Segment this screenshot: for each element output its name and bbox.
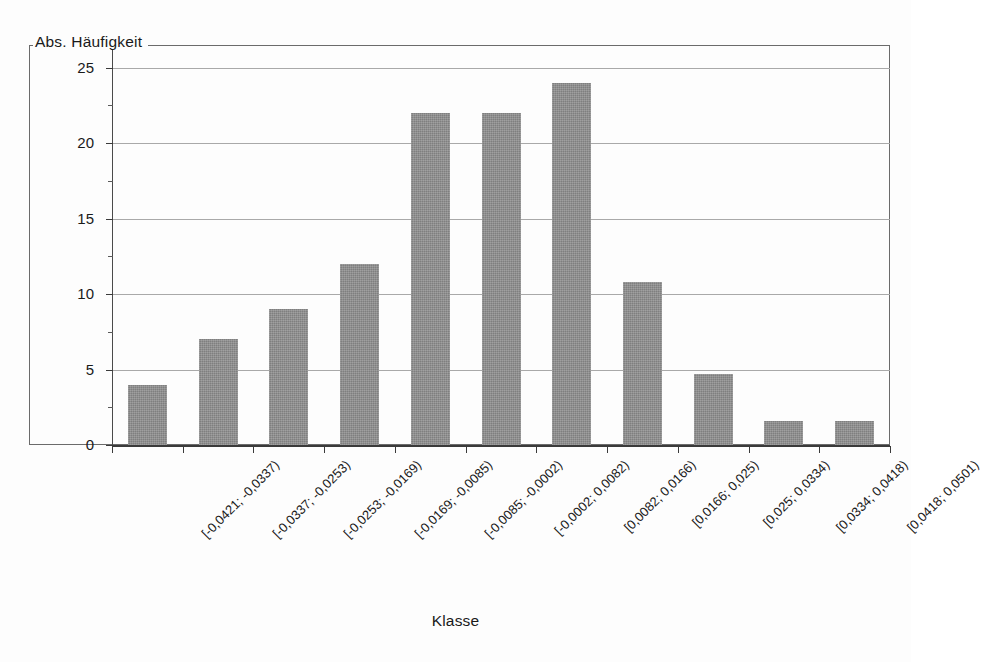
x-tick-mark bbox=[324, 446, 325, 453]
x-category-label: [0,0418; 0,0501) bbox=[905, 458, 981, 534]
y-tick-mark-20 bbox=[106, 143, 113, 144]
x-tick-mark bbox=[536, 446, 537, 453]
x-tick-mark bbox=[678, 446, 679, 453]
y-tick-label-25: 25 bbox=[48, 60, 94, 75]
x-tick-mark bbox=[253, 446, 254, 453]
y-minor-tick-mark bbox=[108, 181, 113, 182]
x-tick-mark bbox=[466, 446, 467, 453]
y-minor-tick-mark bbox=[108, 332, 113, 333]
y-minor-tick-mark bbox=[108, 256, 113, 257]
x-axis-title: Klasse bbox=[0, 612, 911, 630]
bar bbox=[411, 113, 450, 445]
x-tick-mark bbox=[112, 446, 113, 453]
y-tick-mark-25 bbox=[106, 68, 113, 69]
bar bbox=[269, 309, 308, 445]
bar bbox=[694, 374, 733, 445]
bar bbox=[764, 421, 803, 445]
x-axis-line bbox=[112, 445, 890, 447]
x-tick-mark bbox=[395, 446, 396, 453]
bar bbox=[552, 83, 591, 445]
plot-area bbox=[112, 45, 890, 445]
bar bbox=[835, 421, 874, 445]
bar bbox=[482, 113, 521, 445]
y-axis-title: Abs. Häufigkeit bbox=[33, 33, 148, 50]
bar bbox=[199, 339, 238, 445]
y-tick-label-5: 5 bbox=[48, 362, 94, 377]
y-tick-mark-15 bbox=[106, 219, 113, 220]
x-tick-mark bbox=[749, 446, 750, 453]
y-tick-label-0: 0 bbox=[48, 437, 94, 452]
gridline-25 bbox=[112, 68, 890, 69]
y-tick-label-10: 10 bbox=[48, 286, 94, 301]
y-tick-label-15: 15 bbox=[48, 211, 94, 226]
bar bbox=[623, 282, 662, 445]
y-minor-tick-mark bbox=[108, 105, 113, 106]
x-tick-mark bbox=[607, 446, 608, 453]
bar bbox=[128, 385, 167, 445]
bar bbox=[340, 264, 379, 445]
x-tick-mark bbox=[183, 446, 184, 453]
y-tick-mark-10 bbox=[106, 294, 113, 295]
x-tick-mark bbox=[819, 446, 820, 453]
y-minor-tick-mark bbox=[108, 407, 113, 408]
y-tick-label-20: 20 bbox=[48, 135, 94, 150]
x-tick-mark bbox=[890, 446, 891, 453]
y-tick-mark-5 bbox=[106, 370, 113, 371]
